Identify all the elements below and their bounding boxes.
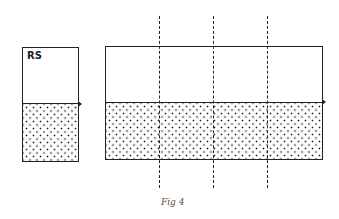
left-tank-stippled-fill [23,103,78,161]
dashed-divider-3 [267,16,268,188]
right-tank-stippled-fill [106,102,322,159]
figure-caption: Fig 4 [161,197,184,207]
left-flow-arrow-icon [78,101,82,107]
left-tank: RS [22,47,79,162]
right-flow-arrow-icon [322,99,326,105]
dashed-divider-2 [213,16,214,188]
right-tank [105,46,323,160]
dashed-divider-1 [159,16,160,188]
rs-label: RS [27,50,42,61]
